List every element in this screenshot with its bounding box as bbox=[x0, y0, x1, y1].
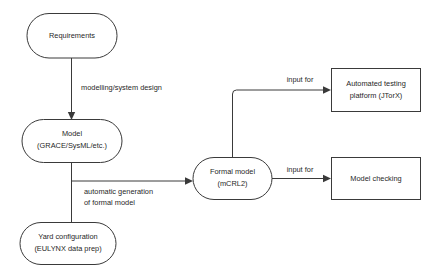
node-formal-model-label-line2: (mCRL2) bbox=[218, 179, 248, 188]
edge-label-automatic-generation-line2: of formal model bbox=[84, 198, 135, 207]
node-model[interactable]: Model (GRACE/SysML/etc.) bbox=[22, 120, 122, 163]
edge-label-input-for-model-checking: input for bbox=[287, 165, 314, 174]
node-yard-configuration[interactable]: Yard configuration (EULYNX data prep) bbox=[20, 223, 116, 265]
edge-label-input-for-testing: input for bbox=[287, 75, 314, 84]
flow-diagram-canvas: modelling/system design automatic genera… bbox=[0, 0, 443, 275]
edge-label-automatic-generation-line1: automatic generation bbox=[84, 187, 153, 196]
node-yard-configuration-label-line1: Yard configuration bbox=[38, 232, 97, 241]
edge-formal-model-to-automated-testing: input for bbox=[233, 75, 332, 157]
node-formal-model[interactable]: Formal model (mCRL2) bbox=[193, 158, 272, 200]
edge-label-modelling-system-design: modelling/system design bbox=[81, 83, 162, 92]
edge-model-to-formal-model: automatic generation of formal model bbox=[72, 177, 194, 207]
node-model-label-line2: (GRACE/SysML/etc.) bbox=[37, 141, 107, 150]
node-model-checking-label: Model checking bbox=[350, 174, 401, 183]
node-automated-testing-platform-label-line1: Automated testing bbox=[346, 79, 406, 88]
edge-requirements-to-model: modelling/system design bbox=[68, 58, 162, 120]
arrowhead-into-model bbox=[68, 112, 75, 120]
edge-line-formal-model-to-automated-testing bbox=[233, 90, 327, 157]
node-automated-testing-platform-label-line2: platform (JTorX) bbox=[350, 91, 403, 100]
node-requirements-label: Requirements bbox=[49, 31, 95, 40]
arrowhead-into-model-checking bbox=[323, 175, 331, 182]
arrowhead-into-formal-model bbox=[185, 177, 193, 184]
flow-diagram: modelling/system design automatic genera… bbox=[0, 0, 443, 275]
node-model-checking[interactable]: Model checking bbox=[332, 158, 421, 200]
node-formal-model-label-line1: Formal model bbox=[210, 167, 256, 176]
node-automated-testing-platform[interactable]: Automated testing platform (JTorX) bbox=[332, 69, 421, 112]
arrowhead-into-automated-testing bbox=[323, 86, 331, 93]
node-model-label-line1: Model bbox=[62, 129, 82, 138]
node-requirements[interactable]: Requirements bbox=[27, 14, 117, 59]
edge-formal-model-to-model-checking: input for bbox=[272, 165, 331, 182]
node-yard-configuration-label-line2: (EULYNX data prep) bbox=[34, 244, 101, 253]
